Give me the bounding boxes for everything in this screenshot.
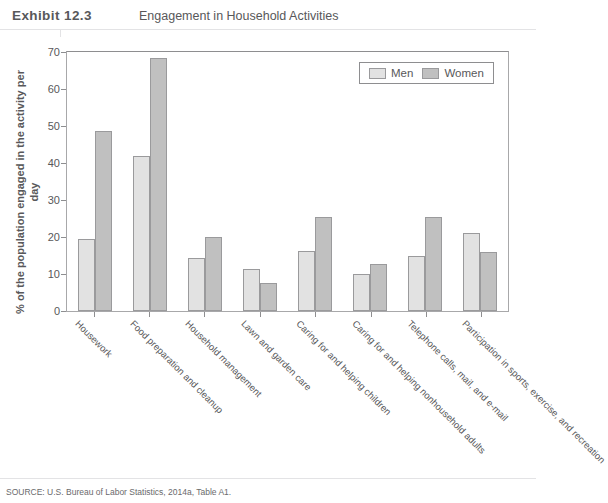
source-divider xyxy=(0,478,536,479)
y-axis-label: % of the population engaged in the activ… xyxy=(13,67,41,317)
bar-men xyxy=(78,239,95,311)
chart-legend: Men Women xyxy=(359,62,494,84)
y-axis-tick-label: 20 xyxy=(38,231,60,243)
bar-women xyxy=(150,58,167,311)
plot-area xyxy=(66,51,509,312)
bar-women xyxy=(425,217,442,311)
bar-women xyxy=(205,237,222,311)
x-axis-tick-mark xyxy=(260,312,261,317)
bar-men xyxy=(188,258,205,311)
legend-swatch-women xyxy=(422,68,439,79)
legend-label-women: Women xyxy=(444,67,483,79)
x-axis-tick-mark xyxy=(94,312,95,317)
bar-group xyxy=(243,52,277,311)
bar-men xyxy=(408,256,425,312)
bar-men xyxy=(243,269,260,311)
bar-group xyxy=(463,52,497,311)
bar-women xyxy=(260,283,277,311)
bar-men xyxy=(133,156,150,311)
x-axis-tick-mark xyxy=(204,312,205,317)
x-axis-tick-mark xyxy=(481,312,482,317)
legend-item-women: Women xyxy=(422,67,483,79)
bar-group xyxy=(408,52,442,311)
bar-group xyxy=(188,52,222,311)
x-axis-tick-label: Food preparation and cleanup xyxy=(128,318,225,415)
y-axis-tick-label: 10 xyxy=(38,268,60,280)
bar-women xyxy=(480,252,497,311)
y-axis-tick-label: 50 xyxy=(38,120,60,132)
exhibit-header: Exhibit 12.3 Engagement in Household Act… xyxy=(0,0,536,30)
bar-group xyxy=(298,52,332,311)
bar-groups xyxy=(67,52,508,311)
exhibit-label: Exhibit 12.3 xyxy=(12,8,92,23)
y-axis-tick-label: 0 xyxy=(38,305,60,317)
y-axis-tick-label: 60 xyxy=(38,83,60,95)
page-title: Engagement in Household Activities xyxy=(139,9,338,23)
exhibit-word: Exhibit xyxy=(12,8,60,23)
x-axis-tick-mark xyxy=(149,312,150,317)
bar-women xyxy=(370,264,387,311)
bar-women xyxy=(95,131,112,311)
source-note: SOURCE: U.S. Bureau of Labor Statistics,… xyxy=(6,487,231,497)
header-tick-mark xyxy=(60,29,61,37)
bar-group xyxy=(78,52,112,311)
header-divider xyxy=(0,29,536,30)
bar-group xyxy=(133,52,167,311)
x-axis-tick-label: Housework xyxy=(73,318,114,359)
x-axis-tick-label: Caring for and helping children xyxy=(294,318,393,417)
y-axis-tick-label: 40 xyxy=(38,157,60,169)
bar-men xyxy=(353,274,370,311)
x-axis-tick-mark xyxy=(315,312,316,317)
legend-swatch-men xyxy=(369,68,386,79)
x-axis-tick-mark xyxy=(426,312,427,317)
x-axis-tick-label: Telephone calls, mail, and e-mail xyxy=(405,318,510,423)
y-axis-tick-label: 70 xyxy=(38,46,60,58)
legend-label-men: Men xyxy=(391,67,413,79)
bar-women xyxy=(315,217,332,311)
bar-men xyxy=(298,251,315,311)
y-axis-tick-label: 30 xyxy=(38,194,60,206)
legend-item-men: Men xyxy=(369,67,413,79)
exhibit-number: 12.3 xyxy=(64,8,92,23)
bar-men xyxy=(463,233,480,311)
x-axis-tick-mark xyxy=(371,312,372,317)
bar-group xyxy=(353,52,387,311)
